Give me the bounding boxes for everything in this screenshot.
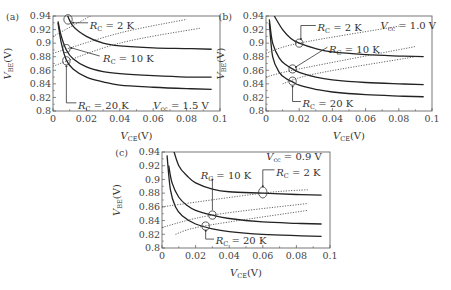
y-tick-label: 0.82 — [139, 229, 160, 240]
rc-label: RC = 2 K — [275, 167, 321, 180]
y-axis-label: VBE(V) — [2, 48, 15, 80]
y-tick-label: 0.94 — [30, 10, 51, 21]
panel-b: 00.020.040.060.080.10.80.820.840.860.880… — [215, 10, 440, 143]
vcc-label: Vcc = 0.9 V — [266, 151, 322, 164]
x-tick-label: 0.02 — [76, 113, 97, 124]
y-tick-label: 0.9 — [36, 37, 51, 48]
y-tick-label: 0.84 — [30, 78, 51, 89]
y-tick-label: 0.92 — [30, 24, 51, 35]
y-tick-label: 0.84 — [243, 78, 264, 89]
y-tick-label: 0.92 — [139, 160, 160, 171]
panel-a: 00.020.040.060.080.10.80.820.840.860.880… — [2, 9, 228, 143]
x-tick-label: 0.08 — [176, 113, 197, 124]
load-line — [283, 57, 416, 84]
y-tick-label: 0.82 — [30, 92, 51, 103]
y-axis-label: VBE(V) — [215, 48, 228, 80]
figure: 00.020.040.060.080.10.80.820.840.860.880… — [0, 0, 451, 290]
x-axis-label: VCE(V) — [121, 130, 153, 143]
x-axis-label: VCE(V) — [333, 130, 365, 143]
x-tick-label: 0.1 — [322, 250, 337, 261]
x-tick-label: 0.1 — [212, 113, 227, 124]
y-tick-label: 0.84 — [139, 215, 160, 226]
x-tick-label: 0.04 — [109, 113, 130, 124]
annotation-leader — [66, 66, 76, 103]
y-tick-label: 0.88 — [30, 51, 51, 62]
annotation-leader — [71, 48, 99, 56]
vcc-label: Vcc = 1.0 V — [381, 20, 437, 33]
panel-tag: (c) — [115, 147, 128, 158]
annotation-leader — [293, 87, 301, 102]
y-tick-label: 0.94 — [243, 10, 264, 21]
load-line — [162, 203, 308, 227]
panel-tag: (a) — [6, 11, 19, 22]
x-tick-label: 0.06 — [252, 250, 273, 261]
rc-label: RC = 10 K — [200, 170, 252, 183]
y-tick-label: 0.8 — [36, 105, 51, 116]
panel-tag: (b) — [219, 11, 233, 22]
y-tick-label: 0.9 — [249, 37, 264, 48]
y-tick-label: 0.94 — [139, 146, 160, 157]
y-tick-label: 0.88 — [139, 187, 160, 198]
x-tick-label: 0.02 — [185, 250, 206, 261]
annotation-leader — [301, 26, 316, 40]
y-tick-label: 0.88 — [243, 51, 264, 62]
x-tick-label: 0.06 — [143, 113, 164, 124]
x-tick-label: 0.1 — [424, 113, 439, 124]
x-tick-label: 0.02 — [289, 113, 310, 124]
x-tick-label: 0.04 — [322, 113, 343, 124]
y-tick-label: 0.92 — [243, 24, 264, 35]
y-tick-label: 0.9 — [145, 174, 160, 185]
load-line — [175, 210, 308, 234]
y-tick-label: 0.86 — [243, 65, 264, 76]
x-tick-label: 0.04 — [219, 250, 240, 261]
y-tick-label: 0.86 — [139, 201, 160, 212]
annotation-leader — [263, 170, 275, 186]
rc-label: RC = 20 K — [302, 98, 354, 111]
y-axis-label: VBE(V) — [111, 184, 124, 216]
y-tick-label: 0.82 — [243, 92, 264, 103]
y-tick-label: 0.86 — [30, 65, 51, 76]
rc-label: RC = 10 K — [102, 53, 154, 66]
y-tick-label: 0.8 — [249, 105, 264, 116]
x-tick-label: 0.08 — [286, 250, 307, 261]
x-tick-label: 0.06 — [355, 113, 376, 124]
panel-c: 00.020.040.060.080.10.80.820.840.860.880… — [111, 145, 338, 280]
rc-label: RC = 2 K — [89, 20, 135, 33]
rc-label: RC = 20 K — [215, 235, 267, 248]
x-tick-label: 0.08 — [388, 113, 409, 124]
curve-r-c-2-k — [66, 13, 211, 50]
annotation-leader — [206, 231, 214, 239]
x-axis-label: VCE(V) — [230, 267, 262, 280]
y-tick-label: 0.8 — [145, 242, 160, 253]
